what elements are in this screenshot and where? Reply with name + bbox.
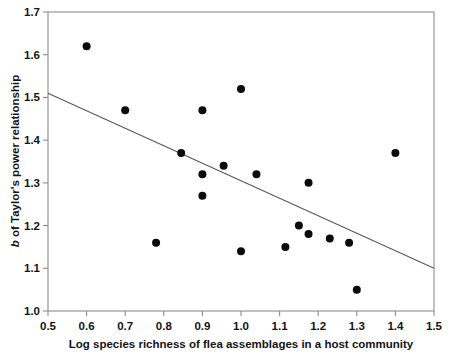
data-point [345,239,353,247]
data-point [353,286,361,294]
data-point [237,247,245,255]
y-tick-label: 1.7 [24,6,40,18]
x-tick-label: 1.1 [272,320,289,332]
x-tick-label: 0.9 [194,320,210,332]
y-tick-label: 1.4 [24,134,41,146]
data-point [281,243,289,251]
data-point [198,192,206,200]
y-tick-label: 1.1 [24,262,41,274]
data-point [83,42,91,50]
data-point [121,106,129,114]
data-point [237,85,245,93]
data-point [177,149,185,157]
chart-background [0,0,453,359]
y-axis-title: b of Taylor's power relationship [9,75,21,248]
y-tick-label: 1.3 [24,177,40,189]
x-tick-label: 0.6 [79,320,95,332]
y-axis-title-italic-b: b [9,240,21,247]
x-tick-label: 0.7 [117,320,133,332]
scatter-plot-figure: 0.50.60.70.80.91.01.11.21.31.41.5 1.01.1… [0,0,453,359]
y-tick-label: 1.2 [24,220,40,232]
data-point [305,230,313,238]
x-tick-label: 0.5 [40,320,57,332]
x-axis-title: Log species richness of flea assemblages… [69,338,414,350]
x-tick-label: 1.3 [349,320,365,332]
x-tick-label: 1.0 [233,320,249,332]
data-point [295,222,303,230]
y-tick-label: 1.0 [24,305,40,317]
data-point [198,170,206,178]
x-tick-label: 0.8 [156,320,173,332]
x-tick-label: 1.5 [426,320,443,332]
data-point [252,170,260,178]
data-point [326,234,334,242]
y-tick-label: 1.6 [24,49,40,61]
x-tick-label: 1.2 [310,320,326,332]
x-tick-label: 1.4 [387,320,404,332]
data-point [198,106,206,114]
data-point [152,239,160,247]
chart-canvas: 0.50.60.70.80.91.01.11.21.31.41.5 1.01.1… [0,0,453,359]
data-point [391,149,399,157]
y-tick-label: 1.5 [24,91,41,103]
y-axis-title-rest: of Taylor's power relationship [9,75,21,240]
data-point [305,179,313,187]
data-point [220,162,228,170]
